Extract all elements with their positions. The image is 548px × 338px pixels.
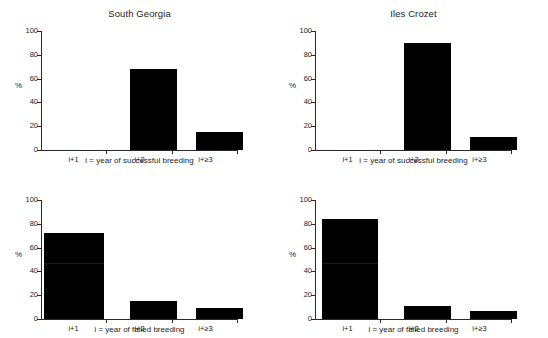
- y-axis-line: [41, 31, 42, 150]
- y-tick-label: 0: [308, 314, 312, 323]
- y-tick-label: 20: [30, 121, 38, 130]
- y-axis-line: [315, 31, 316, 150]
- bar-seam: [44, 263, 104, 264]
- y-tick-label: 60: [304, 74, 312, 83]
- bar-i-plus-1: [44, 233, 104, 319]
- x-axis-line: [41, 319, 238, 320]
- x-tick: [446, 319, 447, 323]
- y-tick-label: 0: [308, 145, 312, 154]
- y-tick-label: 20: [304, 290, 312, 299]
- y-tick-label: 0: [34, 145, 38, 154]
- y-tick-label: 20: [304, 121, 312, 130]
- y-tick-label: 60: [30, 74, 38, 83]
- y-tick-label: 100: [25, 26, 38, 35]
- x-axis-line: [315, 150, 512, 151]
- x-tick: [106, 319, 107, 323]
- panel-iles-crozet-successful: Iles Crozet 0 20 40 60 80 100 % i+1 i+2 …: [274, 0, 548, 169]
- y-tick-label: 40: [30, 266, 38, 275]
- x-tick: [237, 150, 238, 154]
- figure-canvas: South Georgia 0 20 40 60 80 100 % i+1 i+…: [0, 0, 548, 338]
- x-tick: [511, 150, 512, 154]
- x-axis-caption: i = year of successful breeding: [41, 156, 238, 165]
- x-axis-caption: i = year of failed breeding: [315, 325, 512, 334]
- x-axis-caption: i = year of failed breeding: [41, 325, 238, 334]
- panel-south-georgia-failed: 0 20 40 60 80 100 % i+1 i+2 i+≥3 i = yea…: [0, 169, 274, 338]
- y-tick-label: 100: [25, 195, 38, 204]
- y-tick-label: 100: [299, 26, 312, 35]
- y-axis-line: [315, 200, 316, 319]
- y-tick-label: 80: [30, 219, 38, 228]
- y-axis-line: [41, 200, 42, 319]
- x-axis-line: [41, 150, 238, 151]
- y-tick-label: 80: [30, 50, 38, 59]
- plot-area: 0 20 40 60 80 100 % i+1 i+2 i+≥3: [41, 31, 238, 150]
- y-tick-label: 40: [30, 97, 38, 106]
- y-tick-label: 80: [304, 219, 312, 228]
- y-axis-label: %: [289, 81, 296, 90]
- bar-i-plus-2: [404, 306, 451, 319]
- x-tick: [172, 150, 173, 154]
- plot-area: 0 20 40 60 80 100 % i+1 i+2 i+≥3: [315, 200, 512, 319]
- y-tick-label: 0: [34, 314, 38, 323]
- bar-i-plus-ge3: [196, 308, 243, 319]
- bar-i-plus-ge3: [470, 137, 517, 150]
- x-tick: [380, 319, 381, 323]
- plot-area: 0 20 40 60 80 100 % i+1 i+2 i+≥3: [41, 200, 238, 319]
- bar-i-plus-ge3: [196, 132, 243, 150]
- bar-i-plus-2: [130, 301, 177, 319]
- bar-i-plus-2: [130, 69, 177, 150]
- panel-title: Iles Crozet: [315, 8, 512, 19]
- x-tick: [237, 319, 238, 323]
- plot-area: 0 20 40 60 80 100 % i+1 i+2 i+≥3: [315, 31, 512, 150]
- x-tick: [446, 150, 447, 154]
- y-axis-label: %: [15, 250, 22, 259]
- bar-i-plus-2: [404, 43, 451, 150]
- bar-i-plus-ge3: [470, 311, 517, 319]
- y-tick-label: 20: [30, 290, 38, 299]
- x-tick: [380, 150, 381, 154]
- x-axis-caption: i = year of successful breeding: [315, 156, 512, 165]
- x-tick: [172, 319, 173, 323]
- bar-seam: [322, 263, 378, 264]
- y-tick-label: 80: [304, 50, 312, 59]
- y-tick-label: 60: [304, 243, 312, 252]
- panel-iles-crozet-failed: 0 20 40 60 80 100 % i+1 i+2 i+≥3 i = yea…: [274, 169, 548, 338]
- panel-title: South Georgia: [41, 8, 238, 19]
- y-tick-label: 60: [30, 243, 38, 252]
- y-tick-label: 40: [304, 266, 312, 275]
- y-tick-label: 40: [304, 97, 312, 106]
- y-axis-label: %: [289, 250, 296, 259]
- x-tick: [511, 319, 512, 323]
- panel-south-georgia-successful: South Georgia 0 20 40 60 80 100 % i+1 i+…: [0, 0, 274, 169]
- x-tick: [106, 150, 107, 154]
- y-tick-label: 100: [299, 195, 312, 204]
- bar-i-plus-1: [322, 219, 378, 319]
- y-axis-label: %: [15, 81, 22, 90]
- x-axis-line: [315, 319, 512, 320]
